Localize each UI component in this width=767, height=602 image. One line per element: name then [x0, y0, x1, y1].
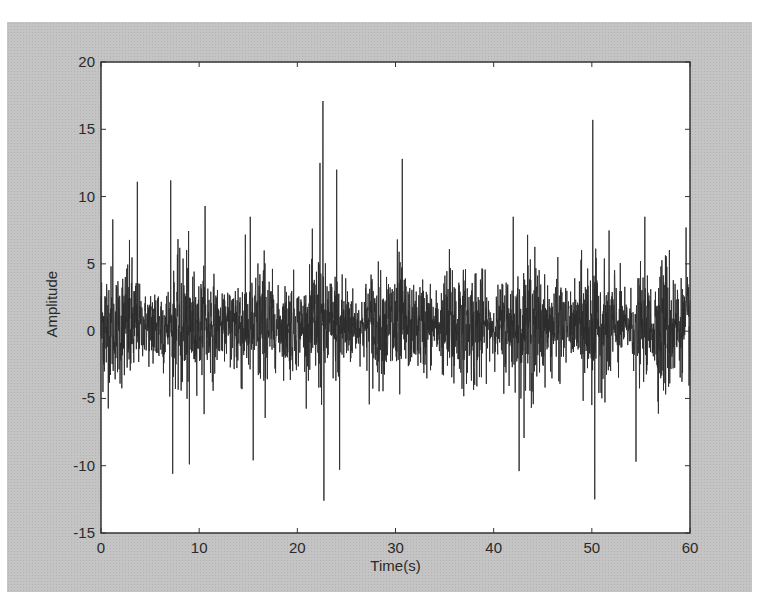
y-tick-label: -15: [73, 524, 95, 541]
x-tick-label: 0: [97, 539, 105, 556]
x-axis-label: Time(s): [370, 557, 420, 574]
x-tick-labels: 0102030405060: [97, 539, 699, 556]
x-tick-label: 40: [485, 539, 502, 556]
y-tick-label: 10: [78, 188, 95, 205]
x-tick-label: 20: [289, 539, 306, 556]
x-tick-label: 10: [191, 539, 208, 556]
y-tick-label: 0: [87, 322, 95, 339]
x-tick-label: 60: [682, 539, 699, 556]
y-tick-label: 20: [78, 53, 95, 70]
x-tick-label: 50: [583, 539, 600, 556]
x-tick-label: 30: [387, 539, 404, 556]
y-tick-labels: -15-10-505101520: [73, 53, 95, 541]
y-tick-label: -10: [73, 457, 95, 474]
y-axis-label: Amplitude: [43, 271, 60, 338]
y-tick-label: 5: [87, 255, 95, 272]
amplitude-time-chart: 0102030405060 -15-10-505101520 Time(s) A…: [0, 0, 767, 602]
y-tick-label: 15: [78, 120, 95, 137]
y-tick-label: -5: [82, 389, 95, 406]
